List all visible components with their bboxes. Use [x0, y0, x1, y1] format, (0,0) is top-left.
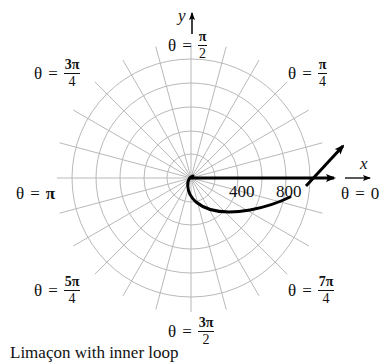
theta-symbol: θ: [288, 282, 296, 299]
angle-label-zero: θ = 0: [341, 185, 379, 202]
grid-spoke: [123, 178, 191, 296]
curve-end-arrow: [306, 146, 343, 186]
angle-label-7pi-over-4: θ = 7π4: [288, 275, 334, 306]
theta-symbol: θ: [341, 185, 349, 202]
angle-label-3pi-over-4: θ = 3π4: [34, 58, 80, 89]
theta-symbol: θ: [168, 323, 176, 340]
grid-spoke: [191, 47, 226, 178]
equals-sign: =: [48, 282, 58, 299]
grid-spoke: [191, 110, 309, 178]
equals-sign: =: [302, 65, 312, 82]
equals-sign: =: [182, 37, 192, 54]
fraction: π4: [318, 58, 328, 89]
equals-sign: =: [302, 282, 312, 299]
equals-sign: =: [355, 185, 365, 202]
theta-symbol: θ: [168, 37, 176, 54]
grid-spoke: [60, 178, 191, 213]
angle-label-pi: θ = π: [16, 185, 55, 202]
grid-spoke: [123, 60, 191, 178]
grid-spoke: [60, 143, 191, 178]
equals-sign: =: [48, 65, 58, 82]
tick-label-800: 800: [276, 182, 302, 202]
theta-symbol: θ: [288, 65, 296, 82]
pi-symbol: π: [46, 185, 55, 202]
grid-spoke: [191, 143, 322, 178]
tick-label-400: 400: [229, 182, 255, 202]
equals-sign: =: [182, 323, 192, 340]
theta-symbol: θ: [16, 185, 24, 202]
fraction: 5π4: [64, 275, 81, 306]
grid-spoke: [73, 178, 191, 246]
fraction: 7π4: [318, 275, 335, 306]
grid-spoke: [73, 110, 191, 178]
y-axis-label: y: [178, 6, 186, 26]
fraction: 3π2: [198, 316, 215, 347]
grid-spoke: [191, 178, 226, 309]
angle-label-pi-over-2: θ = π2: [168, 30, 207, 61]
figure-caption: Limaçon with inner loop: [10, 343, 179, 363]
equals-sign: =: [30, 185, 40, 202]
angle-label-pi-over-4: θ = π4: [288, 58, 327, 89]
theta-symbol: θ: [34, 282, 42, 299]
angle-label-5pi-over-4: θ = 5π4: [34, 275, 80, 306]
x-axis-label: x: [360, 154, 368, 174]
grid-spoke: [191, 60, 259, 178]
zero-value: 0: [371, 185, 380, 202]
theta-symbol: θ: [34, 65, 42, 82]
grid-spoke: [156, 47, 191, 178]
fraction: 3π4: [64, 58, 81, 89]
grid-spoke: [156, 178, 191, 309]
fraction: π2: [198, 30, 208, 61]
